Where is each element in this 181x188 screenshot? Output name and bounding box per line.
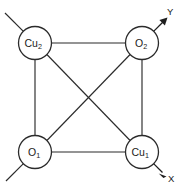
axis-x-arrow [154,164,167,179]
bond-group-diagonals [47,55,130,141]
molecular-structure-figure: Cu2 O2 O1 Cu1 Y X [0,0,181,188]
axis-x-shaft [154,164,163,173]
axis-label-group: Y X [167,6,175,184]
structure-canvas: Cu2 O2 O1 Cu1 Y X [0,0,181,188]
stub-o1-lower-left [6,164,23,181]
axis-y-arrow [154,18,168,32]
axis-label-x: X [168,173,175,184]
atom-label-cu1-element: Cu [132,146,146,158]
atom-label-o1-subscript: 1 [36,151,40,160]
atom-label-o1-element: O [28,146,36,158]
atom-label-cu2-subscript: 2 [38,42,42,51]
atom-label-o2-subscript: 2 [143,42,147,51]
atom-label-o2-element: O [135,37,143,49]
atom-label-cu2-element: Cu [25,37,39,49]
stub-cu2-upper-left [5,13,23,31]
axis-label-y: Y [167,6,174,17]
axis-x-arrowhead [159,173,167,178]
atom-label-cu1-subscript: 1 [145,151,149,160]
axis-y-shaft [154,22,164,32]
